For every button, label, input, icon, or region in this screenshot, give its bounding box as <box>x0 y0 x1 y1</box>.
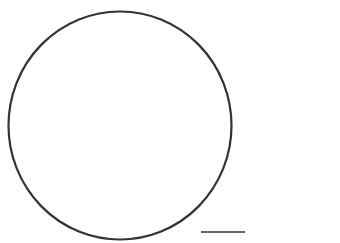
diagram-canvas <box>0 0 340 243</box>
diagram-svg <box>0 0 340 243</box>
circle-shape <box>9 12 232 240</box>
